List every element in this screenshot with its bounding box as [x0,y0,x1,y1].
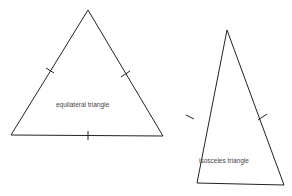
triangles-diagram [0,0,292,196]
tick-mark-right [121,71,130,77]
isosceles-triangle-label: isosceles triangle [199,157,249,164]
tick-mark-left [186,115,194,119]
equilateral-triangle-label: equilateral triangle [56,101,109,108]
equilateral-triangle [11,10,163,140]
